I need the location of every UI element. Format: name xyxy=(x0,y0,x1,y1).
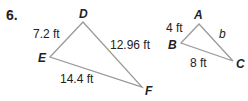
side-ab-label: 4 ft xyxy=(166,21,183,35)
similar-triangles-figure: 6. D E F 7.2 ft 12.96 ft 14.4 ft A B C 4… xyxy=(0,0,248,101)
vertex-a: A xyxy=(193,8,203,22)
side-ac-label: b xyxy=(219,27,226,41)
problem-number: 6. xyxy=(6,7,18,23)
vertex-f: F xyxy=(145,84,153,98)
side-ef-label: 14.4 ft xyxy=(60,72,94,86)
vertex-c: C xyxy=(236,57,245,71)
vertex-b: B xyxy=(168,38,177,52)
vertex-d: D xyxy=(79,7,88,21)
side-bc-label: 8 ft xyxy=(190,56,207,70)
vertex-e: E xyxy=(38,51,47,65)
side-de-label: 7.2 ft xyxy=(33,27,60,41)
side-df-label: 12.96 ft xyxy=(110,38,151,52)
